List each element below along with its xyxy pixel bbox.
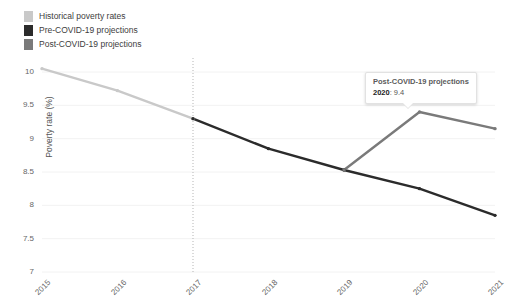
y-axis-tick-8: 8 <box>4 201 34 209</box>
y-axis-tick-8-5: 8.5 <box>4 168 34 176</box>
y-axis-tick-9: 9 <box>4 135 34 143</box>
y-axis-tick-10: 10 <box>4 68 34 76</box>
y-axis-label-wrap: Poverty rate (%) <box>38 82 56 172</box>
y-axis-label: Poverty rate (%) <box>44 96 54 157</box>
y-axis-tick-7: 7 <box>4 268 34 276</box>
plot-area: 109.598.587.57 2015201620172018201920202… <box>0 0 514 305</box>
tooltip-arrow <box>402 102 414 108</box>
chart-tooltip: Post-COVID-19 projections 2020: 9.4 <box>365 72 477 104</box>
y-axis-tick-7-5: 7.5 <box>4 235 34 243</box>
tooltip-title: Post-COVID-19 projections <box>373 77 469 87</box>
y-axis-tick-9-5: 9.5 <box>4 101 34 109</box>
tooltip-value-row: 2020: 9.4 <box>373 88 469 98</box>
chart-svg <box>0 0 514 305</box>
poverty-rate-line-chart: Historical poverty rates Pre-COVID-19 pr… <box>0 0 514 305</box>
tooltip-value-label: 2020 <box>373 88 390 97</box>
tooltip-value: 9.4 <box>394 88 404 97</box>
